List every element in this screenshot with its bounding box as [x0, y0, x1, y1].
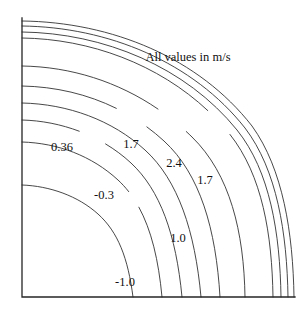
annotation-all-values-in-ms: All values in m/s — [145, 50, 230, 64]
contour-plot-svg: 0.361.72.41.7-0.31.0-1.0 All values in m… — [0, 0, 304, 314]
contour-value-label: 2.4 — [166, 156, 182, 170]
contour-value-label: 1.7 — [123, 137, 139, 151]
contour-value-label: -0.3 — [94, 188, 114, 202]
contour-value-label: -1.0 — [115, 275, 135, 289]
contour-plot-figure: 0.361.72.41.7-0.31.0-1.0 All values in m… — [0, 0, 304, 314]
contour-value-label: 0.36 — [51, 140, 73, 154]
contour-value-label: 1.0 — [170, 231, 186, 245]
contour-value-label: 1.7 — [197, 173, 213, 187]
